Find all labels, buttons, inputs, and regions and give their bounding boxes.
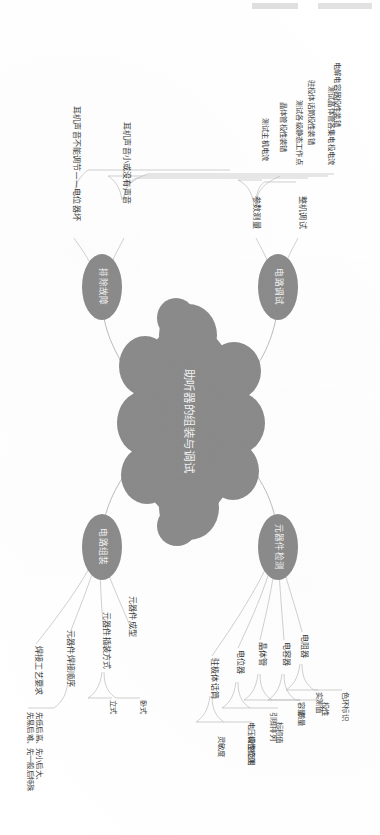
label-polarity-detection[interactable]: 极性检测 (247, 736, 256, 765)
label-nominal-value[interactable]: 标称值 (275, 722, 284, 744)
label-transistor-polarity[interactable]: 晶体管极性装错 (279, 102, 288, 152)
label-cap-polarity[interactable]: 极性 (321, 702, 330, 716)
label-electret-mic-polarity[interactable]: 驻极体话筒极性装错 (307, 80, 316, 145)
label-electrolytic-cap-polarity[interactable]: 电解电容器极性装错 (333, 62, 342, 127)
label-component-forming[interactable]: 元器件成型 (128, 596, 138, 637)
label-soldering-order[interactable]: 元器件焊接顺序 (66, 630, 76, 687)
mindmap-page: 助听器的组装与调试 电路调试 排除故障 元器件检测 电路组装 整机调试 参数测量… (0, 0, 380, 835)
label-potentiometer[interactable]: 电位器 (236, 650, 246, 675)
label-sensitivity[interactable]: 灵敏度 (217, 736, 226, 758)
label-whole-machine-debug[interactable]: 整机调试 (298, 196, 308, 229)
label-volume-not-adjustable[interactable]: 耳机声音不能调节——电位器坏 (72, 106, 82, 221)
label-measure-quiescent-point[interactable]: 测试各级静态工作点 (295, 100, 304, 165)
label-low-or-no-sound[interactable]: 耳机声音小或没有声音 (122, 122, 132, 204)
mindmap-canvas: 助听器的组装与调试 电路调试 排除故障 元器件检测 电路组装 整机调试 参数测量… (0, 0, 380, 835)
label-measure-main-current[interactable]: 测试主机电流 (261, 118, 270, 161)
label-transistor[interactable]: 晶体管 (258, 642, 268, 667)
label-soldering-requirements[interactable]: 焊接工艺要求 (34, 646, 44, 695)
center-node-label: 助听器的组装与调试 (115, 296, 265, 546)
label-horizontal-mount[interactable]: 卧式 (139, 700, 148, 714)
center-node[interactable]: 助听器的组装与调试 (115, 296, 265, 546)
label-resistor[interactable]: 电阻器 (300, 634, 310, 659)
label-capacitor[interactable]: 电容器 (282, 642, 292, 667)
label-vertical-mount[interactable]: 立式 (109, 700, 118, 714)
label-parameter-measure[interactable]: 参数测量 (252, 196, 262, 229)
label-transistor-quality[interactable]: 质量 (297, 712, 306, 726)
label-insertion-method[interactable]: 元器件插装方式 (102, 612, 112, 669)
label-order-rule[interactable]: 先低后高、先小后大、 先易后难、先一般后特殊 (26, 712, 45, 791)
label-color-band[interactable]: 色环标识 (341, 692, 350, 721)
label-electret-mic[interactable]: 驻极体话筒 (210, 658, 220, 699)
